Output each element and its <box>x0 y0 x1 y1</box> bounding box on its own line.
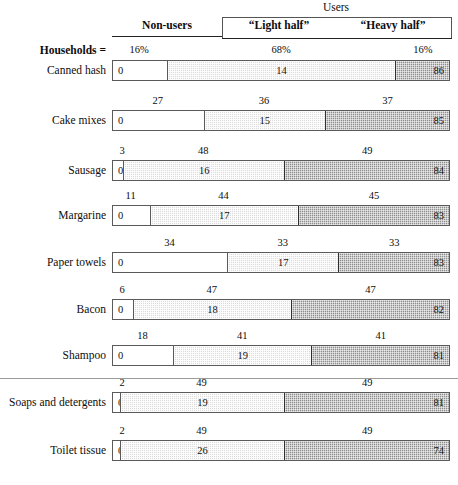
row-label-shampoo: Shampoo <box>0 349 106 361</box>
row-label-sausage: Sausage <box>0 164 106 176</box>
households-pct-1: 68% <box>271 44 290 55</box>
bar-segment-light-half: 26 <box>120 441 285 460</box>
users-group-label: Users <box>222 1 450 13</box>
segment-value: 0 <box>118 350 123 361</box>
top-pct-2: 37 <box>382 95 393 106</box>
top-pct-1: 41 <box>237 330 248 341</box>
row-label-cake-mixes: Cake mixes <box>0 114 106 126</box>
row-label-soaps-and-detergents: Soaps and detergents <box>0 396 106 408</box>
segment-value: 16 <box>199 165 210 176</box>
bar-segment-non-users: 0 <box>113 161 123 180</box>
row-label-canned-hash: Canned hash <box>0 64 106 76</box>
bar-segment-heavy-half: 84 <box>284 161 449 180</box>
top-pct-1: 48 <box>198 145 209 156</box>
segment-value: 0 <box>118 65 123 76</box>
bar-segment-heavy-half: 81 <box>311 346 449 365</box>
bar-segment-heavy-half: 85 <box>325 111 449 130</box>
households-percentages: 16%68%16% <box>112 44 450 57</box>
row-label-paper-towels: Paper towels <box>0 256 106 268</box>
bar-segment-light-half: 17 <box>150 206 298 225</box>
top-pct-0: 18 <box>137 330 148 341</box>
stacked-bar: 01783 <box>112 205 450 226</box>
segment-value: 86 <box>433 65 444 76</box>
bar-segment-light-half: 19 <box>120 393 285 412</box>
segment-value: 0 <box>118 397 120 408</box>
row-top-percentages: 64747 <box>112 284 450 297</box>
top-pct-2: 41 <box>375 330 386 341</box>
segment-value: 19 <box>197 397 208 408</box>
segment-value: 19 <box>238 350 249 361</box>
top-pct-1: 47 <box>206 284 217 295</box>
segment-value: 81 <box>433 397 444 408</box>
row-top-percentages: 34849 <box>112 145 450 158</box>
households-row-label: Households = <box>0 44 106 56</box>
bar-segment-light-half: 16 <box>123 161 284 180</box>
row-top-percentages: 184141 <box>112 330 450 343</box>
stacked-bar: 02674 <box>112 440 450 461</box>
row-top-percentages: 273637 <box>112 95 450 108</box>
stacked-bar: 01981 <box>112 345 450 366</box>
top-pct-1: 33 <box>277 237 288 248</box>
bar-segment-light-half: 15 <box>204 111 325 130</box>
stacked-bar: 01783 <box>112 252 450 273</box>
chart-header: Users Non-users “Light half” “Heavy half… <box>0 0 458 40</box>
segment-value: 18 <box>207 304 218 315</box>
top-pct-2: 47 <box>365 284 376 295</box>
stacked-bar: 01585 <box>112 110 450 131</box>
column-header-heavy-half: “Heavy half” <box>336 19 450 31</box>
top-pct-0: 34 <box>164 237 175 248</box>
bar-segment-non-users: 0 <box>113 393 120 412</box>
segment-value: 84 <box>433 165 444 176</box>
non-users-rule <box>112 36 222 37</box>
row-label-bacon: Bacon <box>0 303 106 315</box>
segment-value: 74 <box>433 445 444 456</box>
top-pct-0: 3 <box>119 145 124 156</box>
row-top-percentages: 343333 <box>112 237 450 250</box>
bar-segment-heavy-half: 81 <box>284 393 449 412</box>
bar-segment-non-users: 0 <box>113 346 173 365</box>
column-header-non-users: Non-users <box>112 19 222 31</box>
bar-segment-non-users: 0 <box>113 300 133 319</box>
stacked-bar: 01684 <box>112 160 450 181</box>
segment-value: 26 <box>197 445 208 456</box>
segment-value: 83 <box>433 210 444 221</box>
segment-value: 85 <box>433 115 444 126</box>
segment-value: 0 <box>118 115 123 126</box>
top-pct-2: 45 <box>369 190 380 201</box>
top-pct-2: 49 <box>362 145 373 156</box>
segment-value: 81 <box>433 350 444 361</box>
segment-value: 83 <box>433 257 444 268</box>
segment-value: 82 <box>433 304 444 315</box>
bar-segment-non-users: 0 <box>113 441 120 460</box>
bar-segment-light-half: 17 <box>227 253 338 272</box>
stacked-bar: 01981 <box>112 392 450 413</box>
bar-segment-light-half: 14 <box>167 61 395 80</box>
top-pct-0: 6 <box>120 284 125 295</box>
row-label-toilet-tissue: Toilet tissue <box>0 444 106 456</box>
households-pct-2: 16% <box>413 44 432 55</box>
bar-segment-heavy-half: 74 <box>284 441 449 460</box>
bar-segment-heavy-half: 83 <box>298 206 449 225</box>
top-pct-0: 2 <box>119 425 124 436</box>
column-header-light-half: “Light half” <box>222 19 336 31</box>
top-pct-2: 49 <box>362 425 373 436</box>
bar-segment-non-users: 0 <box>113 61 167 80</box>
segment-value: 0 <box>118 445 120 456</box>
bar-segment-heavy-half: 86 <box>395 61 449 80</box>
segment-value: 17 <box>219 210 230 221</box>
top-pct-0: 11 <box>126 190 136 201</box>
heavy-half-bar-chart: Users Non-users “Light half” “Heavy half… <box>0 0 458 485</box>
top-pct-0: 27 <box>152 95 163 106</box>
segment-value: 15 <box>259 115 270 126</box>
bar-segment-heavy-half: 82 <box>291 300 449 319</box>
section-divider <box>0 378 458 379</box>
households-pct-0: 16% <box>129 44 148 55</box>
row-top-percentages: 114445 <box>112 190 450 203</box>
stacked-bar: 01486 <box>112 60 450 81</box>
bar-segment-non-users: 0 <box>113 206 150 225</box>
segment-value: 0 <box>118 210 123 221</box>
bar-segment-heavy-half: 83 <box>338 253 449 272</box>
bar-segment-non-users: 0 <box>113 253 227 272</box>
top-pct-1: 44 <box>218 190 229 201</box>
top-pct-1: 49 <box>196 425 207 436</box>
